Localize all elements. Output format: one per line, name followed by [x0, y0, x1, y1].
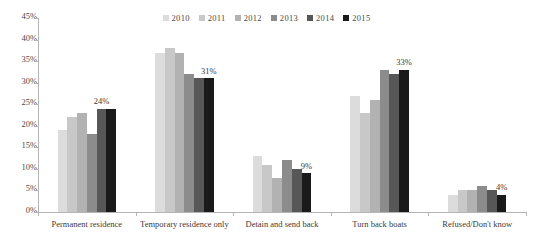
x-axis-category-label: Permanent residence — [38, 220, 136, 229]
bar[interactable] — [458, 190, 468, 212]
y-tick-label: 45% — [21, 12, 37, 21]
bar[interactable] — [184, 74, 194, 212]
x-tick-mark — [526, 212, 527, 216]
bar[interactable] — [448, 195, 458, 212]
x-axis-category-label: Refused/Don't know — [428, 220, 526, 229]
x-axis-category-label: Turn back boats — [331, 220, 429, 229]
y-tick-label: 15% — [21, 141, 37, 150]
bar[interactable] — [360, 113, 370, 212]
y-tick-label: 25% — [21, 98, 37, 107]
bar[interactable] — [399, 70, 409, 212]
bar-value-label: 4% — [491, 183, 513, 192]
bar[interactable] — [350, 96, 360, 212]
y-tick-label: 30% — [21, 77, 37, 86]
y-tick-label: 20% — [21, 120, 37, 129]
bar[interactable] — [497, 195, 507, 212]
x-axis-category-label: Temporary residence only — [136, 220, 234, 229]
plot-area: 24%31%9%33%4% — [38, 18, 526, 212]
grouped-bar-chart: 201020112012201320142015 45%40%35%30%25%… — [0, 0, 533, 243]
bar[interactable] — [370, 100, 380, 212]
bar[interactable] — [253, 156, 263, 212]
bar[interactable] — [262, 165, 272, 212]
x-axis-category-label: Detain and send back — [233, 220, 331, 229]
bar[interactable] — [106, 109, 116, 212]
bar-group — [253, 18, 312, 212]
bar[interactable] — [292, 169, 302, 212]
bar[interactable] — [155, 53, 165, 213]
x-tick-mark — [233, 212, 234, 216]
y-tick-label: 40% — [21, 34, 37, 43]
bar[interactable] — [477, 186, 487, 212]
bar-group — [58, 18, 117, 212]
x-tick-mark — [428, 212, 429, 216]
bar[interactable] — [282, 160, 292, 212]
bar-value-label: 31% — [198, 67, 220, 76]
bar[interactable] — [487, 190, 497, 212]
bar[interactable] — [389, 74, 399, 212]
bar[interactable] — [302, 173, 312, 212]
bar-value-label: 9% — [296, 162, 318, 171]
bar[interactable] — [58, 130, 68, 212]
bar[interactable] — [194, 78, 204, 212]
y-tick-label: 10% — [21, 163, 37, 172]
x-tick-mark — [331, 212, 332, 216]
bar[interactable] — [165, 48, 175, 212]
bar[interactable] — [204, 78, 214, 212]
x-axis-line — [38, 212, 526, 213]
bar-value-label: 33% — [393, 58, 415, 67]
y-tick-label: 35% — [21, 55, 37, 64]
x-tick-mark — [136, 212, 137, 216]
x-tick-mark — [38, 212, 39, 216]
y-tick-label: 5% — [26, 184, 37, 193]
bar[interactable] — [77, 113, 87, 212]
bar-group — [350, 18, 409, 212]
bar-value-label: 24% — [91, 97, 113, 106]
bar[interactable] — [272, 178, 282, 212]
bar[interactable] — [97, 109, 107, 212]
bar[interactable] — [175, 53, 185, 213]
bar-group — [155, 18, 214, 212]
bar[interactable] — [467, 190, 477, 212]
y-tick-label: 0% — [26, 206, 37, 215]
bar[interactable] — [87, 134, 97, 212]
bar[interactable] — [67, 117, 77, 212]
bar[interactable] — [380, 70, 390, 212]
